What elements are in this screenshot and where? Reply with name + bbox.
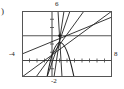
- axis-label-left: -4: [9, 51, 15, 58]
- graph-figure: ) 6 -4 8 -2 (1, 3): [0, 0, 124, 89]
- point-marker: [58, 34, 61, 37]
- axis-label-right: 8: [114, 51, 118, 58]
- item-marker: ): [1, 7, 4, 16]
- axis-label-top: 6: [55, 1, 59, 8]
- axis-label-bottom: -2: [51, 78, 57, 85]
- plot-svg: [22, 11, 112, 77]
- plot-area: [22, 11, 112, 77]
